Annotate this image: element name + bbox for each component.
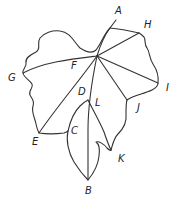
label-I: I: [166, 82, 169, 93]
label-F: F: [71, 60, 77, 71]
label-K: K: [118, 153, 126, 164]
leaf-lower-lobe-left: [67, 131, 111, 180]
vein-A-H: [110, 28, 139, 33]
vein-B: [88, 56, 97, 180]
label-L: L: [95, 97, 101, 108]
label-E: E: [32, 136, 39, 147]
label-G: G: [8, 72, 16, 83]
label-J: J: [135, 102, 140, 113]
label-C: C: [71, 125, 78, 136]
label-H: H: [144, 19, 152, 30]
leaf-diagram: A H G F I D L J C E K B: [0, 0, 175, 202]
leaf-right-outline: [111, 33, 158, 150]
label-D: D: [78, 86, 86, 97]
vein-H: [97, 33, 139, 56]
label-B: B: [85, 185, 92, 196]
label-A: A: [114, 5, 122, 16]
